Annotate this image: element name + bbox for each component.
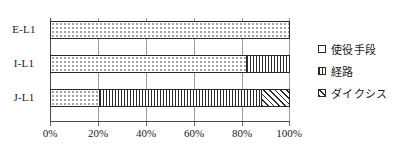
y-axis-tick-label-1: I-L1	[2, 57, 46, 69]
y-axis-tick-label-2: J-L1	[2, 91, 46, 103]
y-axis-labels: E-L1 I-L1 J-L1	[0, 18, 46, 122]
bar-segment-deixis	[261, 89, 290, 107]
bar-segment-shieki-shudan	[50, 21, 290, 39]
x-axis-tick-mark-80	[242, 122, 243, 126]
legend-label-shieki-shudan: 使役手段	[331, 41, 376, 57]
legend-swatch-shieki-shudan	[318, 45, 326, 53]
x-axis-line	[50, 121, 290, 122]
bar-segment-keiro	[246, 55, 290, 73]
stacked-bar-chart: E-L1 I-L1 J-L1	[0, 0, 409, 160]
x-axis-tick-label-80: 80%	[232, 127, 252, 139]
legend-swatch-keiro	[318, 67, 326, 75]
x-axis-tick-mark-100	[289, 122, 290, 126]
x-axis-tick-label-60: 60%	[184, 127, 204, 139]
plot-area	[50, 18, 290, 122]
legend-swatch-deixis	[318, 89, 326, 97]
legend-label-keiro: 経路	[331, 63, 354, 79]
x-axis-tick-label-40: 40%	[136, 127, 156, 139]
x-axis-labels: 0% 20% 40% 60% 80% 100%	[50, 127, 290, 143]
bar-row-j-l1	[50, 89, 290, 107]
legend-item-shieki-shudan: 使役手段	[318, 38, 408, 60]
x-axis-tick-label-20: 20%	[88, 127, 108, 139]
bar-segment-keiro	[99, 89, 262, 107]
bar-segment-shieki-shudan	[50, 89, 100, 107]
legend-item-deixis: ダイクシス	[318, 82, 408, 104]
bar-row-i-l1	[50, 55, 290, 73]
bar-segment-shieki-shudan	[50, 55, 247, 73]
x-axis-tick-mark-20	[98, 122, 99, 126]
x-axis-tick-mark-0	[50, 122, 51, 126]
x-axis-tick-label-100: 100%	[276, 127, 302, 139]
y-axis-tick-label-0: E-L1	[2, 23, 46, 35]
legend-label-deixis: ダイクシス	[331, 85, 388, 101]
x-axis-tick-mark-40	[146, 122, 147, 126]
chart-legend: 使役手段 経路 ダイクシス	[318, 38, 408, 104]
legend-item-keiro: 経路	[318, 60, 408, 82]
x-axis-tick-label-0: 0%	[43, 127, 58, 139]
x-axis-tick-mark-60	[194, 122, 195, 126]
bar-row-e-l1	[50, 21, 290, 39]
